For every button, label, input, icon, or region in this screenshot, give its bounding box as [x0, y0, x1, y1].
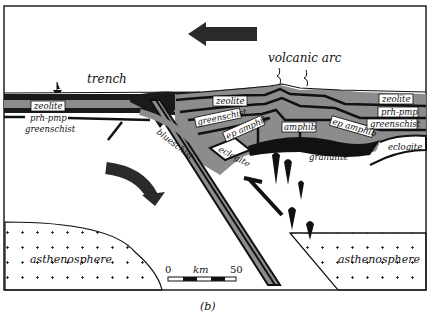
scale-bar-end-label: 50 [230, 264, 243, 275]
scale-bar-start-label: 0 [165, 264, 171, 275]
facies-label-amphib: amphib [284, 122, 316, 132]
facies-label-greenschist: greenschist [25, 124, 76, 134]
panel-label: (b) [200, 300, 216, 313]
facies-label-granulite: granulite [309, 152, 348, 162]
facies-label-zeolite-right: zeolite [381, 94, 411, 104]
asthenosphere-left-label: asthenosphere [30, 253, 112, 266]
volcano-plume-icon [304, 70, 308, 86]
facies-label-eclogite-right: eclogite [388, 142, 422, 152]
plate-motion-arrow-icon [188, 22, 257, 46]
volcanic-arc-label: volcanic arc [268, 51, 342, 65]
facies-label-zeolite: zeolite [33, 101, 63, 111]
facies-label-prh-pmp-right: prh-pmp [381, 107, 418, 117]
ship-icon [53, 82, 62, 93]
slab-exhumation-arrow-icon [244, 178, 282, 215]
trench-label: trench [87, 72, 127, 86]
subduction-zone-diagram: trench volcanic arc zeolite prh-pmp gree… [0, 0, 428, 320]
volcano-plume-icon [277, 68, 281, 84]
facies-label-prh-pmp: prh-pmp [30, 113, 67, 123]
facies-label-greenschist-right: greenschist [370, 119, 421, 129]
scale-bar [168, 277, 236, 281]
magma-droplets [272, 153, 314, 241]
mantle-flow-arrow-icon [106, 168, 165, 206]
asthenosphere-right-label: asthenosphere [338, 253, 420, 266]
facies-label-zeolite-center: zeolite [215, 96, 245, 106]
scale-bar-unit-label: km [193, 264, 209, 275]
